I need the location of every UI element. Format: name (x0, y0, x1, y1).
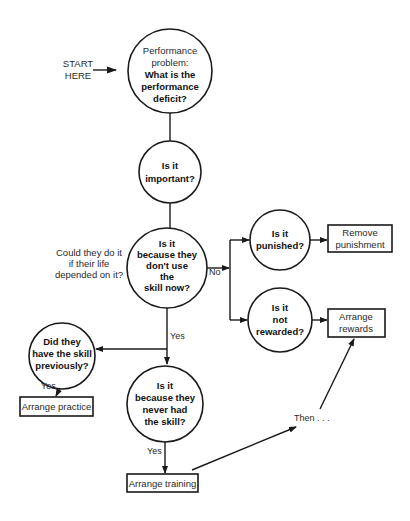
svg-text:have the skill: have the skill (32, 348, 92, 359)
svg-text:previously?: previously? (35, 360, 89, 371)
node-is-it-important: Is it important? (139, 141, 201, 203)
edge-training-then (192, 427, 296, 470)
svg-text:the: the (160, 271, 174, 282)
svg-text:Is it: Is it (157, 380, 174, 391)
svg-text:never had: never had (143, 404, 188, 415)
svg-text:Could they do it: Could they do it (56, 247, 122, 258)
svg-text:Did they: Did they (43, 336, 81, 347)
svg-text:What is the: What is the (145, 69, 196, 80)
action-remove-punishment: Remove punishment (328, 225, 392, 252)
node-is-it-not-rewarded: Is it not rewarded? (248, 288, 312, 352)
svg-text:the skill?: the skill? (144, 416, 185, 427)
svg-text:punished?: punished? (256, 240, 304, 251)
svg-text:performance: performance (141, 81, 199, 92)
node-had-skill-previously: Did they have the skill previously? (29, 323, 95, 389)
action-arrange-training: Arrange training (127, 474, 198, 492)
flowchart: START HERE Performance problem: What is … (0, 0, 410, 521)
svg-text:not: not (273, 314, 289, 325)
action-arrange-rewards: Arrange rewards (328, 309, 385, 337)
svg-text:because they: because they (137, 249, 198, 260)
svg-text:don't use: don't use (146, 260, 188, 271)
svg-text:rewards: rewards (339, 323, 373, 334)
node-dont-use-skill: Is it because they don't use the skill n… (127, 228, 207, 308)
node-is-it-punished: Is it punished? (250, 210, 310, 270)
svg-text:if their life: if their life (69, 258, 110, 269)
edge-label-no: No (209, 267, 221, 277)
svg-text:depended on it?: depended on it? (55, 269, 123, 280)
svg-text:skill now?: skill now? (144, 282, 190, 293)
svg-text:Is it: Is it (159, 238, 176, 249)
svg-text:Performance: Performance (143, 45, 197, 56)
edge-label-yes-down: Yes (170, 331, 185, 341)
svg-text:Arrange: Arrange (339, 311, 373, 322)
node-performance-deficit: Performance problem: What is the perform… (128, 29, 212, 113)
start-label: START HERE (63, 58, 93, 81)
edge-label-yes-training: Yes (147, 446, 162, 456)
edge-label-yes-previously: Yes (41, 381, 56, 391)
node-never-had-skill: Is it because they never had the skill? (127, 366, 203, 442)
svg-text:HERE: HERE (65, 70, 91, 81)
svg-text:deficit?: deficit? (153, 93, 187, 104)
svg-text:because they: because they (135, 392, 196, 403)
svg-text:Is it: Is it (272, 228, 289, 239)
svg-text:rewarded?: rewarded? (256, 326, 304, 337)
svg-text:Remove: Remove (342, 227, 377, 238)
action-arrange-practice: Arrange practice (20, 397, 93, 416)
svg-text:Arrange training: Arrange training (129, 478, 197, 489)
edge-label-then: Then . . . (294, 413, 330, 423)
svg-text:Arrange practice: Arrange practice (22, 401, 92, 412)
svg-text:problem:: problem: (152, 57, 189, 68)
svg-text:Is it: Is it (162, 160, 179, 171)
svg-text:Is it: Is it (272, 302, 289, 313)
side-note-life-depended: Could they do it if their life depended … (55, 247, 123, 280)
svg-text:punishment: punishment (335, 239, 384, 250)
svg-text:START: START (63, 58, 93, 69)
edge-then-rewards (320, 339, 354, 409)
svg-text:important?: important? (145, 173, 195, 184)
